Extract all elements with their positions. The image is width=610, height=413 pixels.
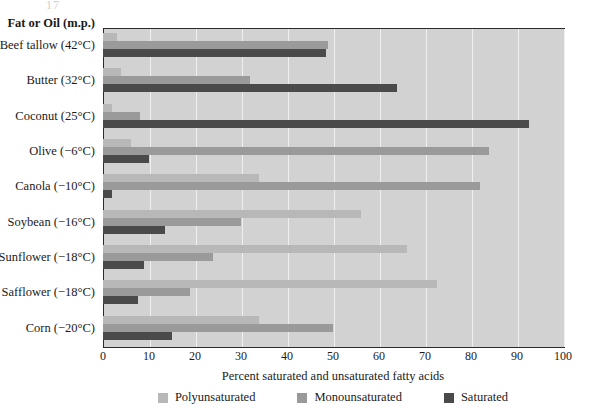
bar-rows (103, 28, 563, 346)
bar-saturated (103, 84, 397, 92)
category-label: Olive (−6°C) (0, 134, 99, 169)
legend-swatch-icon (297, 393, 307, 403)
bar-row (103, 275, 563, 310)
bar-saturated (103, 296, 138, 304)
bar-polyunsaturated (103, 280, 437, 288)
x-tick-label: 40 (281, 349, 293, 364)
x-axis-ticks: 0102030405060708090100 (103, 349, 563, 365)
legend-label: Polyunsaturated (175, 390, 256, 405)
legend-label: Saturated (461, 390, 508, 405)
bar-monounsaturated (103, 324, 333, 332)
legend-label: Monounsaturated (314, 390, 401, 405)
bar-polyunsaturated (103, 174, 259, 182)
x-tick-label: 70 (419, 349, 431, 364)
bar-polyunsaturated (103, 104, 112, 112)
x-tick-label: 60 (373, 349, 385, 364)
legend-swatch-icon (158, 393, 168, 403)
bar-polyunsaturated (103, 139, 131, 147)
bar-saturated (103, 332, 172, 340)
x-axis-label: Percent saturated and unsaturated fatty … (103, 369, 563, 384)
category-label: Corn (−20°C) (0, 311, 99, 346)
category-label: Coconut (25°C) (0, 99, 99, 134)
legend-item[interactable]: Monounsaturated (297, 390, 401, 405)
category-label: Soybean (−16°C) (0, 205, 99, 240)
bar-saturated (103, 155, 149, 163)
fatty-acid-composition-chart: 17 Fat or Oil (m.p.) Beef tallow (42°C)B… (0, 0, 610, 413)
bar-row (103, 311, 563, 346)
bar-saturated (103, 226, 165, 234)
x-tick-label: 50 (327, 349, 339, 364)
bar-monounsaturated (103, 288, 190, 296)
category-label: Sunflower (−18°C) (0, 240, 99, 275)
category-label: Butter (32°C) (0, 63, 99, 98)
bar-monounsaturated (103, 182, 480, 190)
x-tick-label: 20 (189, 349, 201, 364)
bar-saturated (103, 120, 529, 128)
page-number-artifact: 17 (46, 0, 60, 13)
x-tick-label: 80 (465, 349, 477, 364)
category-label: Safflower (−18°C) (0, 275, 99, 310)
category-label-column: Beef tallow (42°C)Butter (32°C)Coconut (… (0, 28, 99, 346)
bar-monounsaturated (103, 41, 328, 49)
bar-polyunsaturated (103, 316, 259, 324)
bar-row (103, 99, 563, 134)
bar-row (103, 169, 563, 204)
bar-row (103, 63, 563, 98)
legend-item[interactable]: Polyunsaturated (158, 390, 256, 405)
bar-monounsaturated (103, 76, 250, 84)
bar-saturated (103, 190, 112, 198)
legend-item[interactable]: Saturated (444, 390, 508, 405)
bar-polyunsaturated (103, 33, 117, 41)
category-label: Beef tallow (42°C) (0, 28, 99, 63)
x-tick-label: 0 (100, 349, 106, 364)
x-tick-label: 10 (143, 349, 155, 364)
bar-row (103, 205, 563, 240)
bar-saturated (103, 261, 144, 269)
chart-legend: PolyunsaturatedMonounsaturatedSaturated (103, 390, 563, 405)
bar-monounsaturated (103, 112, 140, 120)
bar-row (103, 134, 563, 169)
bar-polyunsaturated (103, 68, 121, 76)
bar-polyunsaturated (103, 245, 407, 253)
legend-swatch-icon (444, 393, 454, 403)
gridline-100 (564, 29, 565, 347)
category-label: Canola (−10°C) (0, 169, 99, 204)
bar-monounsaturated (103, 218, 241, 226)
x-tick-label: 30 (235, 349, 247, 364)
bar-saturated (103, 49, 326, 57)
x-tick-label: 100 (554, 349, 572, 364)
bar-polyunsaturated (103, 210, 361, 218)
x-tick-label: 90 (511, 349, 523, 364)
bar-row (103, 240, 563, 275)
bar-monounsaturated (103, 253, 213, 261)
bar-monounsaturated (103, 147, 489, 155)
bar-row (103, 28, 563, 63)
